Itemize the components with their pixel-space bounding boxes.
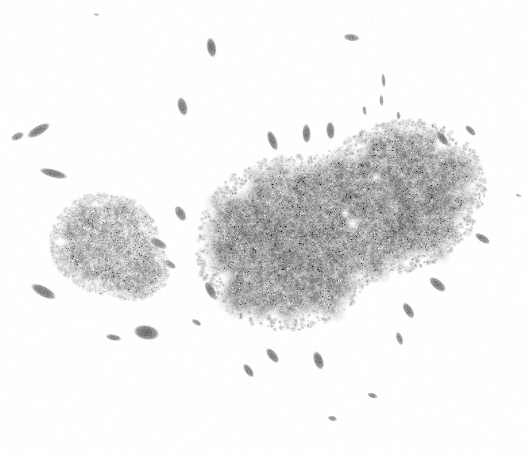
micrograph-canvas	[0, 0, 527, 454]
micrograph-viewport: Grayscale micrograph of two granular col…	[0, 0, 527, 454]
